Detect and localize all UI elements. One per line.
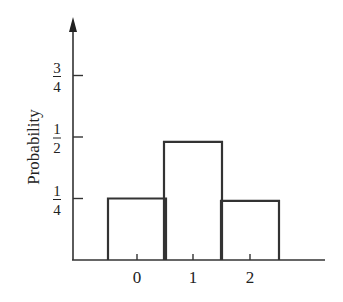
- histogram-chart: 141234 012 Probability: [0, 0, 343, 302]
- x-tick-label: 2: [246, 268, 255, 287]
- bar-1: [164, 142, 222, 260]
- bars: [108, 142, 279, 260]
- x-tick-label: 1: [189, 268, 198, 287]
- y-tick-labels: 141234: [53, 60, 61, 218]
- svg-text:2: 2: [53, 140, 61, 156]
- y-axis-label: Probability: [24, 109, 43, 185]
- svg-text:4: 4: [53, 202, 61, 218]
- svg-text:3: 3: [53, 60, 61, 76]
- bar-2: [221, 201, 279, 260]
- y-tick-label: 12: [53, 121, 61, 156]
- svg-text:1: 1: [53, 121, 61, 137]
- bar-0: [108, 199, 166, 261]
- x-ticks: [137, 254, 250, 260]
- svg-text:1: 1: [53, 183, 61, 199]
- y-ticks: [73, 76, 83, 199]
- svg-text:4: 4: [53, 79, 61, 95]
- x-tick-labels: 012: [133, 268, 255, 287]
- y-tick-label: 34: [53, 60, 61, 95]
- y-axis-arrow-icon: [69, 17, 77, 32]
- y-tick-label: 14: [53, 183, 61, 218]
- x-tick-label: 0: [133, 268, 142, 287]
